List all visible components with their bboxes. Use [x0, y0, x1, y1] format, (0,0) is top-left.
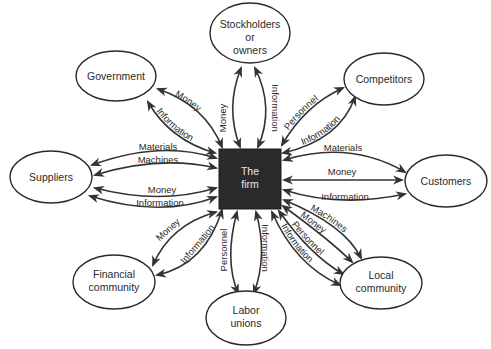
node-government: Government — [76, 51, 156, 101]
flow-label: Money — [217, 103, 228, 132]
svg-text:owners: owners — [233, 44, 267, 56]
flow-label: Materials — [324, 142, 363, 153]
flow-label: Machines — [138, 154, 179, 165]
node-suppliers: Suppliers — [10, 151, 92, 203]
flows-labor: Personnel Information — [218, 212, 271, 293]
node-the-firm: The firm — [219, 149, 281, 209]
node-labor-unions: Labor unions — [206, 291, 286, 345]
svg-text:Stockholders: Stockholders — [220, 18, 281, 30]
flow-label: Money — [174, 88, 205, 114]
svg-text:Government: Government — [87, 70, 145, 82]
flows-suppliers: Materials Machines Money Information — [90, 141, 216, 208]
svg-text:community: community — [89, 281, 141, 293]
node-stockholders: Stockholders or owners — [210, 3, 290, 63]
svg-text:Labor: Labor — [233, 304, 260, 316]
svg-text:Customers: Customers — [421, 175, 472, 187]
flow-label: Personnel — [281, 93, 320, 132]
flow-label: Information — [136, 197, 184, 208]
flows-stockholders: Money Information — [217, 68, 281, 147]
svg-text:Suppliers: Suppliers — [29, 171, 73, 183]
flow-label: Information — [321, 191, 369, 202]
node-customers: Customers — [405, 155, 487, 207]
flow-label: Information — [270, 84, 281, 132]
flow-label: Personnel — [218, 229, 229, 272]
svg-text:unions: unions — [231, 317, 262, 329]
svg-text:Financial: Financial — [93, 268, 135, 280]
flow-label: Information — [178, 222, 217, 265]
svg-text:community: community — [356, 282, 408, 294]
flow-label: Information — [260, 224, 271, 272]
flows-financial: Money Information — [153, 210, 222, 275]
flow-label: Money — [153, 216, 182, 243]
flow-label: Information — [155, 106, 196, 143]
node-local-community: Local community — [340, 257, 422, 309]
flow-label: Materials — [139, 141, 178, 152]
svg-text:firm: firm — [241, 178, 259, 190]
flows-customers: Materials Money Information — [284, 142, 405, 202]
node-competitors: Competitors — [344, 53, 424, 105]
svg-text:Competitors: Competitors — [356, 73, 413, 85]
stakeholder-diagram: Money Information Money Information Pers… — [0, 0, 491, 349]
svg-text:Local: Local — [368, 269, 393, 281]
flow-label: Money — [328, 166, 357, 177]
svg-text:or: or — [245, 31, 255, 43]
svg-text:The: The — [241, 165, 259, 177]
node-financial-community: Financial community — [73, 255, 155, 309]
flow-label: Money — [148, 184, 177, 195]
